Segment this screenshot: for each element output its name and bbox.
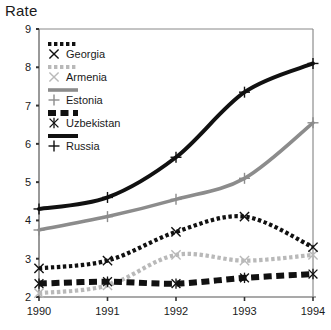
legend-item-russia: Russia (48, 136, 101, 152)
chart-figure: Rate 2345678919901991199219931994 Georgi… (0, 0, 331, 330)
y-axis-tick-label: 8 (25, 61, 31, 73)
series-armenia (34, 250, 317, 297)
legend-label-georgia: Georgia (66, 48, 106, 60)
y-axis-tick-label: 4 (25, 214, 31, 226)
y-axis-tick-label: 7 (25, 100, 31, 112)
legend-label-armenia: Armenia (66, 71, 108, 83)
x-axis-tick-label: 1990 (27, 305, 51, 317)
legend-item-armenia: Armenia (48, 67, 108, 83)
legend-label-russia: Russia (66, 140, 101, 152)
y-axis-tick-label: 2 (25, 291, 31, 303)
x-axis-tick-label: 1994 (301, 305, 325, 317)
series-line-estonia (39, 123, 313, 230)
legend-item-uzbekistan: Uzbekistan (48, 113, 120, 129)
legend-item-estonia: Estonia (48, 90, 104, 106)
x-axis-tick-label: 1991 (95, 305, 119, 317)
legend-item-georgia: Georgia (48, 44, 106, 60)
legend-label-uzbekistan: Uzbekistan (66, 117, 120, 129)
x-axis-tick-label: 1993 (232, 305, 256, 317)
x-axis-tick-label: 1992 (164, 305, 188, 317)
y-axis-tick-label: 6 (25, 138, 31, 150)
y-axis-tick-label: 3 (25, 253, 31, 265)
chart-legend: GeorgiaArmeniaEstoniaUzbekistanRussia (48, 44, 120, 152)
series-line-russia (39, 63, 313, 208)
y-axis-tick-label: 5 (25, 176, 31, 188)
y-axis-tick-label: 9 (25, 23, 31, 35)
line-chart-canvas: 2345678919901991199219931994 GeorgiaArme… (0, 0, 331, 330)
legend-label-estonia: Estonia (66, 94, 104, 106)
series-uzbekistan (35, 269, 318, 289)
